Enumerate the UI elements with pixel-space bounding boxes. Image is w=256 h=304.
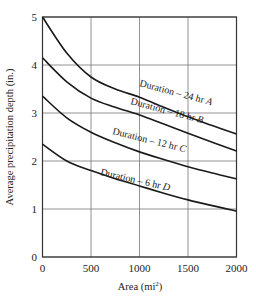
x-axis-ticks: 0500100015002000 [40, 262, 248, 274]
x-tick-label: 1500 [177, 262, 200, 274]
y-tick-label: 4 [32, 59, 38, 71]
curve-labels: Duration – 24 hr ADuration – 18 hr BDura… [100, 77, 215, 193]
x-axis-label: Area (mi2) [118, 280, 163, 293]
y-tick-label: 3 [32, 107, 38, 119]
curve-label-d: Duration – 6 hr D [100, 166, 173, 193]
y-tick-label: 0 [32, 251, 38, 263]
x-tick-label: 0 [40, 262, 46, 274]
y-tick-label: 5 [32, 11, 38, 23]
x-tick-label: 500 [83, 262, 100, 274]
x-tick-label: 2000 [226, 262, 249, 274]
y-axis-ticks: 012345 [32, 11, 38, 263]
y-tick-label: 2 [32, 155, 38, 167]
x-tick-label: 1000 [129, 262, 152, 274]
y-tick-label: 1 [32, 203, 38, 215]
precipitation-depth-area-chart: Duration – 24 hr ADuration – 18 hr BDura… [0, 0, 256, 304]
y-axis-label: Average precipitation depth (in.) [4, 68, 16, 205]
